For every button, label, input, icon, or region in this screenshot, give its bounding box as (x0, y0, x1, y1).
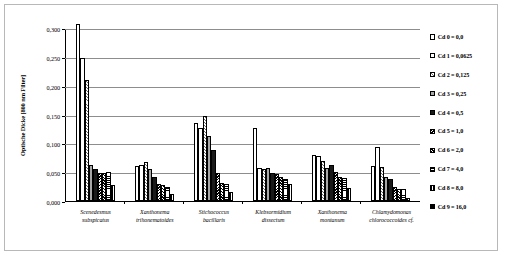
y-tick-mark (62, 29, 65, 30)
bar[interactable] (111, 185, 115, 201)
y-tick-label: 0,150 (47, 112, 60, 119)
category-label: Scenedesmussubspicatus (66, 208, 125, 234)
bar-set (135, 29, 175, 201)
legend-swatch (430, 204, 435, 209)
y-tick-label: 0,300 (47, 26, 60, 33)
bar-group (243, 29, 302, 201)
bar-group (66, 29, 125, 201)
legend-swatch (430, 91, 435, 96)
x-tick-mark (242, 201, 243, 204)
x-tick-mark (124, 201, 125, 204)
legend-item[interactable]: Cd 9 = 16,0 (430, 204, 502, 210)
legend-label: Cd 0 = 0,0 (438, 34, 464, 40)
legend-item[interactable]: Cd 5 = 1,0 (430, 128, 502, 134)
legend-swatch (430, 148, 435, 153)
y-tick-mark (62, 87, 65, 88)
legend-swatch (430, 72, 435, 77)
bar-group (302, 29, 361, 201)
legend-item[interactable]: Cd 6 = 2,0 (430, 147, 502, 153)
legend-swatch (430, 110, 435, 115)
legend-swatch (430, 34, 435, 39)
legend-swatch (430, 53, 435, 58)
legend-label: Cd 5 = 1,0 (438, 128, 464, 134)
legend-item[interactable]: Cd 8 = 8,0 (430, 185, 502, 191)
legend-label: Cd 2 = 0,125 (438, 72, 469, 78)
y-tick-label: 0,000 (47, 199, 60, 206)
bar-set (76, 29, 116, 201)
legend-label: Cd 8 = 8,0 (438, 185, 464, 191)
bar-set (253, 29, 293, 201)
x-tick-mark (360, 201, 361, 204)
bar-set (371, 29, 411, 201)
y-tick-mark (62, 144, 65, 145)
legend-swatch (430, 129, 435, 134)
category-label: Xanthonemamontanum (303, 208, 362, 234)
legend-item[interactable]: Cd 4 = 0,5 (430, 110, 502, 116)
bar-group (184, 29, 243, 201)
legend-label: Cd 7 = 4,0 (438, 166, 464, 172)
x-axis-category-labels: ScenedesmussubspicatusXanthonematrihonem… (66, 208, 421, 234)
bar[interactable] (406, 198, 410, 201)
legend-swatch (430, 185, 435, 190)
category-label: Klebsormidiumdissectum (244, 208, 303, 234)
bar[interactable] (229, 192, 233, 201)
legend-item[interactable]: Cd 0 = 0,0 (430, 34, 502, 40)
y-tick-mark (62, 58, 65, 59)
legend-item[interactable]: Cd 7 = 4,0 (430, 166, 502, 172)
y-tick-label: 0,200 (47, 83, 60, 90)
bar-set (194, 29, 234, 201)
bar[interactable] (288, 184, 292, 201)
bar-group (361, 29, 420, 201)
y-axis-title: Optische Dicke [800 nm Filter] (17, 29, 29, 202)
y-tick-mark (62, 202, 65, 203)
x-tick-mark (301, 201, 302, 204)
category-label: Stichococcusbacillaris (184, 208, 243, 234)
y-tick-label: 0,250 (47, 54, 60, 61)
legend-item[interactable]: Cd 3 = 0,25 (430, 91, 502, 97)
legend-label: Cd 1 = 0,0625 (438, 53, 472, 59)
bar-group (125, 29, 184, 201)
legend-item[interactable]: Cd 2 = 0,125 (430, 72, 502, 78)
category-label: Chlamydomonaschlorococcoides cf. (362, 208, 421, 234)
bar[interactable] (170, 194, 174, 201)
x-tick-mark (183, 201, 184, 204)
y-tick-mark (62, 173, 65, 174)
bar-set (312, 29, 352, 201)
legend-label: Cd 3 = 0,25 (438, 91, 466, 97)
legend-item[interactable]: Cd 1 = 0,0625 (430, 53, 502, 59)
y-tick-label: 0,100 (47, 141, 60, 148)
plot-area: 0,3000,2500,2000,1500,1000,0500,000 (65, 29, 420, 202)
legend-label: Cd 4 = 0,5 (438, 110, 464, 116)
legend-swatch (430, 167, 435, 172)
chart-frame: Optische Dicke [800 nm Filter] 0,3000,25… (4, 4, 498, 251)
category-label: Xanthonematrihonematoides (125, 208, 184, 234)
legend-label: Cd 6 = 2,0 (438, 147, 464, 153)
legend-label: Cd 9 = 16,0 (438, 204, 466, 210)
y-tick-mark (62, 116, 65, 117)
chart-legend: Cd 0 = 0,0Cd 1 = 0,0625Cd 2 = 0,125Cd 3 … (430, 34, 502, 210)
bar-groups (66, 29, 420, 201)
bar[interactable] (347, 188, 351, 201)
y-tick-label: 0,050 (47, 170, 60, 177)
